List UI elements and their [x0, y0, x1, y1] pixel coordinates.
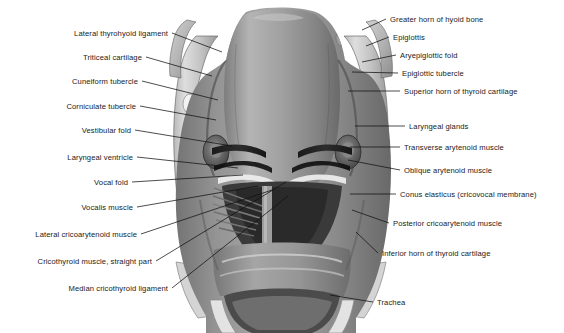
label-cricothyroid-muscle-straight-part: Cricothyroid muscle, straight part: [38, 257, 152, 266]
label-inferior-horn-of-thyroid-cartilage: Inferior horn of thyroid cartilage: [382, 249, 491, 258]
label-lateral-thyrohyoid-ligament: Lateral thyrohyoid ligament: [74, 29, 168, 38]
label-posterior-cricoarytenoid-muscle: Posterior cricoarytenoid muscle: [393, 219, 502, 228]
label-oblique-arytenoid-muscle: Oblique arytenoid muscle: [404, 166, 492, 175]
label-cuneiform-tubercle: Cuneiform tubercle: [72, 77, 138, 86]
label-conus-elasticus-cricovocal-membrane: Conus elasticus (cricovocal membrane): [400, 190, 537, 199]
figure-canvas: Lateral thyrohyoid ligamentTriticeal car…: [0, 0, 564, 333]
label-trachea: Trachea: [377, 298, 405, 307]
label-superior-horn-of-thyroid-cartilage: Superior horn of thyroid cartilage: [404, 87, 518, 96]
label-vestibular-fold: Vestibular fold: [82, 126, 131, 135]
label-epiglottis: Epiglottis: [393, 33, 425, 42]
label-laryngeal-ventricle: Laryngeal ventricle: [67, 153, 133, 162]
label-corniculate-tubercle: Corniculate tubercle: [66, 102, 136, 111]
label-median-cricothyroid-ligament: Median cricothyroid ligament: [69, 284, 168, 293]
label-vocalis-muscle: Vocalis muscle: [81, 203, 133, 212]
label-triticeal-cartilage: Triticeal cartilage: [83, 53, 142, 62]
label-transverse-arytenoid-muscle: Transverse arytenoid muscle: [404, 143, 504, 152]
label-lateral-cricoarytenoid-muscle: Lateral cricoarytenoid muscle: [35, 230, 137, 239]
label-vocal-fold: Vocal fold: [94, 178, 128, 187]
label-aryepiglottic-fold: Aryepiglottic fold: [400, 51, 458, 60]
label-laryngeal-glands: Laryngeal glands: [409, 122, 468, 131]
label-greater-horn-of-hyoid-bone: Greater horn of hyoid bone: [390, 15, 483, 24]
label-epiglottic-tubercle: Epiglottic tubercle: [402, 69, 464, 78]
